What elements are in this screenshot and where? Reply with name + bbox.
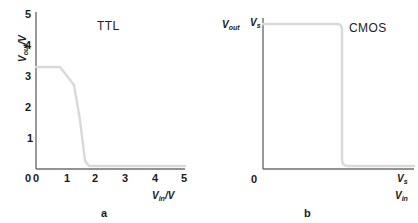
ttl-y-axis-title-sub: out: [22, 44, 29, 55]
ttl-y-tick-0: 0: [25, 173, 31, 184]
cmos-y-axis-title-sub: out: [229, 24, 240, 31]
cmos-y-axis-title-main: V: [222, 19, 229, 30]
ttl-series-tag: TTL: [97, 20, 120, 32]
panel-a-caption: a: [101, 208, 107, 219]
ttl-x-axis-title: Vin/V: [152, 191, 174, 201]
ttl-x-tick-3: 3: [122, 173, 128, 184]
cmos-origin-tick: 0: [251, 174, 257, 185]
cmos-y-axis-title: Vout: [222, 20, 240, 30]
cmos-transfer-curve: [263, 24, 414, 166]
cmos-x-axis-title-sub: in: [402, 195, 408, 202]
ttl-transfer-curve: [36, 67, 185, 166]
cmos-x-tick-vs-main: V: [397, 173, 404, 184]
ttl-y-tick-2: 2: [25, 102, 31, 113]
cmos-y-tick-vs: Vs: [250, 18, 261, 28]
ttl-y-tick-3: 3: [25, 71, 31, 82]
ttl-x-axis-title-sub: in: [159, 195, 165, 202]
panel-b-cmos: Vout Vs 0 Vs Vin CMOS b: [209, 0, 418, 223]
cmos-x-tick-vs: Vs: [397, 174, 408, 184]
ttl-x-axis-title-unit: /V: [165, 190, 174, 201]
panel-a-ttl: 5 4 3 2 1 0 0 1 2 3 4 5 Vout/V Vin/V TTL…: [0, 0, 209, 223]
cmos-y-tick-vs-sub: s: [257, 22, 261, 29]
ttl-y-tick-5: 5: [25, 9, 31, 20]
cmos-x-axis-title: Vin: [395, 191, 408, 201]
ttl-plot-svg: [0, 0, 209, 223]
ttl-y-axis-title-main: V: [17, 55, 28, 62]
ttl-y-axis-title: Vout/V: [18, 35, 28, 62]
cmos-plot-svg: [209, 0, 418, 223]
ttl-x-axis-title-main: V: [152, 190, 159, 201]
cmos-y-tick-vs-main: V: [250, 17, 257, 28]
cmos-x-tick-vs-sub: s: [404, 178, 408, 185]
ttl-x-tick-5: 5: [181, 173, 187, 184]
ttl-x-tick-4: 4: [152, 173, 158, 184]
cmos-x-axis-title-main: V: [395, 190, 402, 201]
ttl-x-tick-0: 0: [33, 173, 39, 184]
panel-b-caption: b: [304, 208, 311, 219]
figure-container: 5 4 3 2 1 0 0 1 2 3 4 5 Vout/V Vin/V TTL…: [0, 0, 418, 223]
ttl-x-tick-1: 1: [64, 173, 70, 184]
ttl-y-tick-1: 1: [27, 133, 33, 144]
cmos-series-tag: CMOS: [349, 22, 387, 34]
ttl-x-tick-2: 2: [92, 173, 98, 184]
